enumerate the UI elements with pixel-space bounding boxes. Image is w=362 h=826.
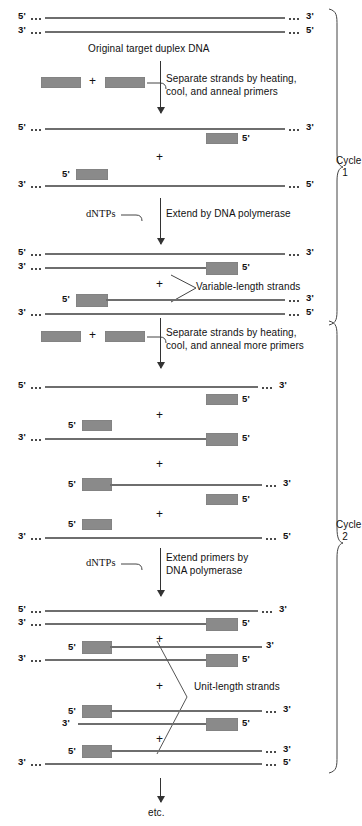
leader-step2: [121, 206, 145, 222]
step4-text-line2: DNA polymerase: [166, 566, 242, 576]
cycle-1-number: 1: [336, 167, 354, 179]
label-c2exta1-left: 5': [18, 604, 26, 614]
primer-block-step1-b: [105, 77, 145, 88]
arrow-footer: [160, 778, 161, 802]
strand-c1-ext-a1: [45, 253, 285, 255]
label-primer-c2extd1: 5': [68, 746, 76, 756]
plus-c2-ext-2: +: [156, 681, 163, 691]
strand-c2-c1: [110, 484, 262, 486]
label-orig-bottom-left: 3': [18, 25, 26, 35]
label-primer-c1extb1: 5': [62, 294, 70, 304]
strand-c2-ext-a2: [45, 623, 208, 625]
label-primer-c2extc2: 5': [242, 718, 250, 728]
annotation-unit-length: Unit-length strands: [194, 682, 280, 692]
label-orig-top-left: 5': [18, 11, 26, 21]
primer-c1-ext-b1: [76, 294, 108, 307]
primer-block-step3-b: [105, 331, 145, 342]
plus-c2-2: +: [156, 459, 163, 469]
primer-c2-ext-b2: [206, 654, 238, 667]
strand-c2-ext-d2: [45, 763, 262, 765]
strand-c2-a1: [45, 386, 258, 388]
strand-c2-d: [45, 537, 262, 539]
primer-c1a: [206, 133, 238, 144]
label-c2extb1-right: 3': [266, 640, 274, 650]
strand-c1a: [45, 128, 285, 130]
label-c2extb2-left: 3': [18, 653, 26, 663]
step4-text-line1: Extend primers by: [166, 553, 248, 563]
strand-orig-top: [45, 17, 285, 19]
label-c1extb2-right: 5': [306, 307, 314, 317]
primer-c2-c2: [206, 494, 238, 505]
label-primer-c2extb1: 5': [68, 642, 76, 652]
step3-text-line1: Separate strands by heating,: [166, 328, 297, 338]
label-c2b2-left: 3': [18, 432, 26, 442]
strand-c2-ext-d1: [110, 750, 262, 752]
plus-step3: +: [89, 330, 96, 340]
brace-cycle-2: [328, 320, 344, 775]
label-primer-c1b: 5': [62, 169, 70, 179]
leader-step4: [121, 555, 145, 571]
strand-c1-ext-b1: [106, 299, 285, 301]
label-c1extb2-left: 3': [18, 307, 26, 317]
primer-c2-ext-a2: [206, 618, 238, 631]
annotation-variable-length: Variable-length strands: [196, 282, 300, 292]
strand-c1-ext-b2: [45, 313, 285, 315]
label-primer-c2c1: 5': [68, 479, 76, 489]
plus-c2-3: +: [156, 509, 163, 519]
label-c2a1-left: 5': [18, 380, 26, 390]
strand-c2-b2: [45, 438, 208, 440]
plus-c1: +: [156, 152, 163, 162]
label-c1exta2-left: 3': [18, 261, 26, 271]
plus-c1-ext: +: [156, 279, 163, 289]
label-primer-c1a: 5': [242, 133, 250, 143]
label-c2d-left: 3': [18, 531, 26, 541]
primer-c2-ext-d1: [82, 745, 112, 758]
strand-c2-ext-c1: [110, 710, 262, 712]
strand-c1b: [45, 185, 285, 187]
label-c2extd1-right: 3': [283, 744, 291, 754]
label-primer-c2exta2: 5': [242, 618, 250, 628]
primer-block-step3-a: [41, 331, 81, 342]
arrow-step1: [160, 61, 161, 113]
label-primer-c2d-extra: 5': [68, 519, 76, 529]
cycle-2-name: Cycle: [336, 519, 362, 531]
primer-c2-a2: [206, 394, 238, 405]
label-c2exta1-right: 3': [279, 604, 287, 614]
label-c1exta1-left: 5': [18, 247, 26, 257]
arrow-step4: [160, 548, 161, 596]
step2-dntps-label: dNTPs: [86, 209, 116, 219]
label-c2a1-right: 3': [279, 380, 287, 390]
label-c2exta2-left: 3': [18, 617, 26, 627]
primer-c2-b2: [206, 433, 238, 446]
arrow-step3: [160, 318, 161, 368]
strand-c2-ext-c2: [78, 723, 208, 725]
label-c2d-right: 5': [283, 531, 291, 541]
step1-text-line2: cool, and anneal primers: [166, 87, 278, 97]
primer-c2-ext-b1: [82, 641, 112, 654]
footer-etc: etc.: [148, 808, 165, 818]
primer-c1-ext-a2: [206, 262, 238, 275]
label-orig-top-right: 3': [306, 11, 314, 21]
label-primer-c2c2: 5': [242, 494, 250, 504]
label-c2extc1-right: 3': [283, 704, 291, 714]
label-primer-c2extc1: 5': [68, 706, 76, 716]
arrow-step2: [160, 198, 161, 244]
strand-c1-ext-a2: [45, 267, 208, 269]
step4-dntps-label: dNTPs: [86, 558, 116, 568]
primer-c2-ext-c2: [206, 718, 238, 731]
primer-c2-d-extra: [82, 519, 112, 530]
label-primer-c2b1: 5': [68, 420, 76, 430]
label-c1b-right: 5': [306, 179, 314, 189]
strand-orig-bottom: [45, 31, 285, 33]
label-c1exta1-right: 3': [306, 247, 314, 257]
caption-original-duplex: Original target duplex DNA: [88, 44, 210, 54]
primer-c2-ext-c1: [82, 705, 112, 718]
label-c1b-left: 3': [18, 179, 26, 189]
cycle-1-name: Cycle: [336, 155, 362, 167]
label-primer-c2extb2: 5': [242, 654, 250, 664]
primer-block-step1-a: [41, 77, 81, 88]
primer-c2-c1: [82, 478, 112, 491]
strand-c2-ext-a1: [45, 610, 258, 612]
label-orig-bottom-right: 5': [306, 25, 314, 35]
